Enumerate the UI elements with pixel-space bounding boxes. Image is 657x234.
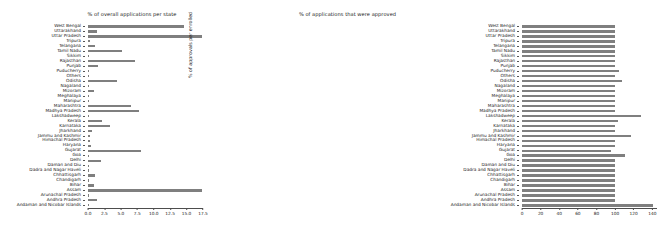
bar — [88, 115, 89, 117]
bar — [88, 160, 101, 162]
bar — [88, 100, 89, 102]
tick-mark — [517, 71, 519, 72]
x-axis-ticks-right: 020406080100120140 — [522, 208, 657, 222]
tick-mark — [83, 31, 85, 32]
tick-mark — [83, 200, 85, 201]
tick-mark — [83, 61, 85, 62]
x-tick-mark — [559, 208, 560, 210]
bar — [522, 55, 615, 57]
bar — [88, 174, 95, 176]
tick-mark — [517, 26, 519, 27]
bar — [522, 164, 615, 166]
tick-mark — [517, 61, 519, 62]
tick-mark — [517, 106, 519, 107]
bar — [522, 174, 615, 176]
tick-mark — [517, 76, 519, 77]
bar-rows-left — [88, 24, 203, 208]
y-tick-label: Andaman and Nicobar Islands — [17, 203, 83, 208]
x-tick: 7.5 — [134, 208, 141, 216]
panel-right-title: % of applications that were approved — [222, 11, 443, 17]
tick-mark — [83, 145, 85, 146]
tick-mark — [83, 121, 85, 122]
bar — [88, 135, 90, 137]
tick-mark — [517, 111, 519, 112]
x-tick: 0.0 — [85, 208, 92, 216]
bar — [522, 80, 622, 82]
x-tick-mark — [137, 208, 138, 210]
bar — [522, 194, 615, 196]
x-tick: 40 — [557, 208, 562, 216]
x-tick-label: 0.0 — [85, 211, 92, 216]
x-tick-mark — [153, 208, 154, 210]
bar — [88, 30, 97, 32]
bar — [88, 50, 122, 52]
x-tick-mark — [104, 208, 105, 210]
tick-mark — [83, 205, 85, 206]
tick-mark — [83, 86, 85, 87]
bar — [88, 169, 89, 171]
tick-mark — [83, 140, 85, 141]
bar — [88, 65, 98, 67]
tick-mark — [83, 116, 85, 117]
tick-mark — [83, 36, 85, 37]
tick-mark — [83, 26, 85, 27]
bar — [522, 35, 615, 37]
x-tick-label: 2.5 — [101, 211, 108, 216]
tick-mark — [517, 66, 519, 67]
tick-mark — [517, 86, 519, 87]
tick-mark — [517, 185, 519, 186]
x-tick: 10.0 — [149, 208, 159, 216]
tick-mark — [83, 155, 85, 156]
tick-mark — [83, 101, 85, 102]
bar — [522, 135, 631, 137]
bar — [88, 110, 139, 112]
x-tick-mark — [203, 208, 204, 210]
x-tick: 12.5 — [165, 208, 175, 216]
x-tick: 5.0 — [117, 208, 124, 216]
x-tick-mark — [121, 208, 122, 210]
x-tick: 2.5 — [101, 208, 108, 216]
bar — [88, 35, 202, 37]
tick-mark — [517, 81, 519, 82]
bar — [522, 110, 615, 112]
bar — [522, 189, 615, 191]
bar — [88, 155, 89, 157]
tick-mark — [83, 126, 85, 127]
tick-mark — [517, 56, 519, 57]
tick-mark — [517, 195, 519, 196]
bar — [88, 90, 94, 92]
bar — [522, 90, 615, 92]
bar — [522, 130, 615, 132]
bar — [522, 199, 615, 201]
tick-mark — [83, 56, 85, 57]
y-axis-labels-left: West BengalUttarakhandUttar PradeshTripu… — [0, 24, 85, 208]
tick-mark — [517, 41, 519, 42]
bar — [88, 145, 91, 147]
bar — [522, 204, 653, 206]
bar — [522, 25, 615, 27]
x-tick-label: 10.0 — [149, 211, 159, 216]
bar — [522, 105, 615, 107]
tick-mark — [517, 31, 519, 32]
tick-mark — [83, 81, 85, 82]
bar — [88, 125, 110, 127]
tick-mark — [517, 131, 519, 132]
x-tick: 60 — [575, 208, 580, 216]
bar — [522, 50, 615, 52]
tick-mark — [83, 136, 85, 137]
bar — [88, 165, 89, 167]
plot-area-right — [522, 24, 657, 208]
bar — [522, 150, 611, 152]
bar — [522, 184, 615, 186]
bar — [88, 70, 89, 72]
x-tick-label: 5.0 — [117, 211, 124, 216]
y-axis-labels-right: West BengalUttarakhandUttar PradeshTripu… — [434, 24, 519, 208]
bar — [522, 75, 615, 77]
tick-mark — [517, 46, 519, 47]
x-tick-mark — [88, 208, 89, 210]
tick-mark — [83, 51, 85, 52]
x-tick: 15.0 — [182, 208, 192, 216]
bar — [522, 169, 615, 171]
x-tick-label: 15.0 — [182, 211, 192, 216]
x-tick: 100 — [611, 208, 619, 216]
